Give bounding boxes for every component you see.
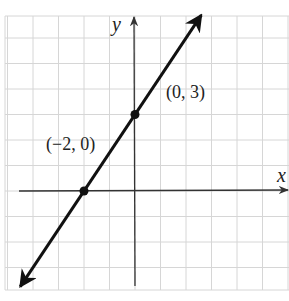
- x-axis-label: x: [276, 164, 286, 186]
- point-label-x-intercept: (−2, 0): [46, 134, 95, 155]
- coordinate-plane: y x (−2, 0) (0, 3): [0, 0, 289, 301]
- point-label-y-intercept: (0, 3): [166, 82, 205, 103]
- point-x-intercept: [80, 187, 89, 196]
- point-y-intercept: [131, 110, 140, 119]
- y-axis-label: y: [110, 13, 121, 36]
